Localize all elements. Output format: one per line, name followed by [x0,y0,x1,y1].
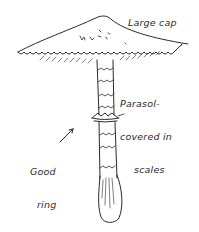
cap-scales [80,30,126,44]
mushroom-diagram: Large cap Parasol- covered in scales Goo… [0,0,199,232]
ring-arrow [60,129,73,142]
cap-edge [18,44,182,54]
stem-lower [99,122,117,178]
label-parasol-line2: covered in [120,131,172,142]
label-good-ring: Good ring [30,144,56,232]
stem-upper [97,60,114,115]
label-parasol-line3: scales [120,164,172,175]
stem-lower-scales [100,133,115,168]
label-large-cap: Large cap [128,17,177,28]
gills-hatching [40,51,160,63]
label-parasol-line1: Parasol- [120,98,172,109]
label-ring-line1: Good [30,166,56,177]
stem-base [99,175,122,222]
label-ring-line2: ring [30,199,56,210]
stem-scales [98,68,114,108]
label-parasol: Parasol- covered in scales [120,76,172,197]
ring [92,113,119,122]
base-striations [102,178,114,208]
